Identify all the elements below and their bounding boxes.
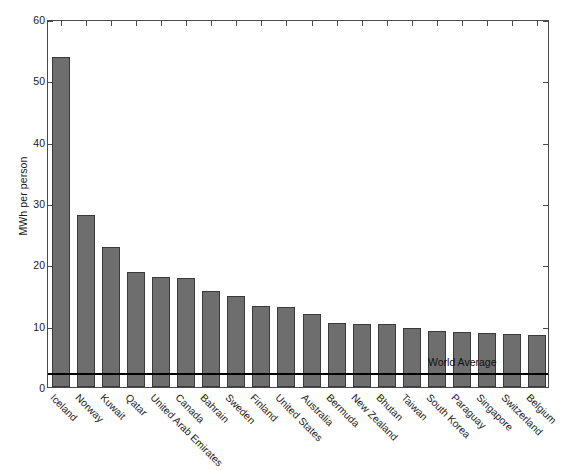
x-axis-category-label: Taiwan [399,392,429,422]
world-average-label: World Average [428,356,497,368]
y-axis-tick-label: 50 [19,75,45,87]
x-axis-tick-mark [437,21,438,26]
y-axis-tick-mark [543,328,548,329]
y-axis-tick-label: 10 [19,321,45,333]
bar [127,272,145,387]
y-axis-tick-label: 20 [19,259,45,271]
y-axis-tick-mark [543,144,548,145]
bar [77,215,95,387]
x-axis-tick-mark [312,21,313,26]
y-axis-tick-mark [543,82,548,83]
bar [52,57,70,387]
x-axis-tick-mark [537,21,538,26]
y-axis-tick-mark [543,21,548,22]
y-axis-tick-mark [48,21,53,22]
x-axis-tick-mark [86,21,87,26]
y-axis-tick-label: 60 [19,14,45,26]
x-axis-tick-mark [161,21,162,26]
plot-area: World Average [47,20,549,388]
x-axis-tick-mark [487,21,488,26]
x-axis-tick-mark [261,21,262,26]
bar [328,323,346,387]
x-axis-tick-mark [462,21,463,26]
x-axis-tick-mark [286,21,287,26]
world-average-line [48,373,548,375]
y-axis-tick-mark [543,205,548,206]
y-axis-tick-label: 0 [19,382,45,394]
bar [152,277,170,387]
bar [303,314,321,387]
y-axis-tick-label: 40 [19,137,45,149]
x-axis-tick-mark [136,21,137,26]
x-axis-tick-mark [362,21,363,26]
x-axis-tick-mark [236,21,237,26]
bar [177,278,195,387]
chart-figure: MWh per person 0102030405060 World Avera… [0,0,575,470]
x-axis-tick-mark [61,21,62,26]
y-axis-tick-label: 30 [19,198,45,210]
x-axis-tick-mark [387,21,388,26]
bar [353,324,371,387]
x-axis-tick-mark [412,21,413,26]
x-axis-tick-mark [211,21,212,26]
bar [378,324,396,387]
x-axis-tick-mark [111,21,112,26]
bar [102,247,120,387]
x-axis-tick-mark [337,21,338,26]
y-axis-tick-mark [543,266,548,267]
x-axis-tick-mark [512,21,513,26]
bar [503,334,521,387]
bar [528,335,546,387]
x-axis-tick-mark [186,21,187,26]
bar [403,328,421,387]
